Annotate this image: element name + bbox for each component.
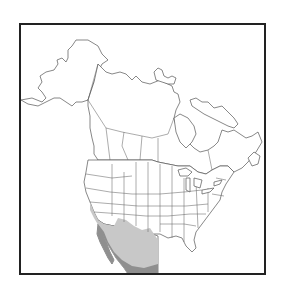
map-frame: Range map of North America xyxy=(19,23,266,275)
baffin-island xyxy=(190,98,238,128)
north-america-map xyxy=(21,25,266,275)
